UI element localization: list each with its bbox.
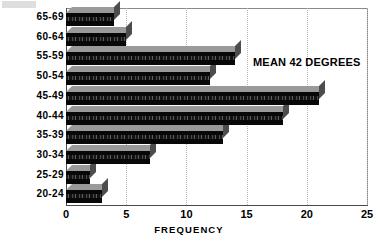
bar-side-face [102, 178, 108, 197]
bar-front-face [66, 13, 114, 26]
y-tick-label-45-49: 45-49 [4, 90, 64, 101]
y-tick-label-20-24: 20-24 [4, 188, 64, 199]
x-tick-label-10: 10 [171, 208, 201, 220]
bar-40-44 [66, 112, 283, 125]
bar-55-59 [66, 52, 235, 65]
bar-chart: 65-6960-6455-5950-5445-4940-4435-3930-34… [0, 0, 378, 243]
bar-20-24 [66, 190, 102, 203]
x-axis-line [66, 205, 368, 206]
y-tick-label-30-34: 30-34 [4, 149, 64, 160]
x-axis-title: FREQUENCY [0, 224, 378, 235]
y-tick-label-35-39: 35-39 [4, 129, 64, 140]
bar-45-49 [66, 92, 319, 105]
x-tick-label-25: 25 [352, 208, 378, 220]
y-tick-label-40-44: 40-44 [4, 110, 64, 121]
y-tick-label-60-64: 60-64 [4, 31, 64, 42]
x-tick-label-15: 15 [232, 208, 262, 220]
bar-front-face [66, 151, 150, 164]
bar-front-face [66, 112, 283, 125]
x-tick-label-0: 0 [51, 208, 81, 220]
bar-front-face [66, 190, 102, 203]
y-tick-label-25-29: 25-29 [4, 169, 64, 180]
x-tick-label-20: 20 [292, 208, 322, 220]
bar-front-face [66, 52, 235, 65]
y-tick-label-65-69: 65-69 [4, 11, 64, 22]
bar-35-39 [66, 131, 223, 144]
bar-60-64 [66, 33, 126, 46]
y-tick-label-55-59: 55-59 [4, 50, 64, 61]
mean-annotation: MEAN 42 DEGREES [253, 56, 361, 68]
bar-side-face [114, 1, 120, 20]
bar-front-face [66, 33, 126, 46]
bar-65-69 [66, 13, 114, 26]
gridline-25 [367, 8, 368, 205]
bar-side-face [235, 40, 241, 59]
bar-30-34 [66, 151, 150, 164]
bar-25-29 [66, 171, 90, 184]
bar-front-face [66, 92, 319, 105]
bar-front-face [66, 131, 223, 144]
bar-50-54 [66, 72, 210, 85]
y-tick-label-50-54: 50-54 [4, 70, 64, 81]
bar-front-face [66, 72, 210, 85]
gridline-20 [307, 8, 308, 205]
bar-front-face [66, 171, 90, 184]
bar-side-face [319, 80, 325, 99]
x-tick-label-5: 5 [111, 208, 141, 220]
